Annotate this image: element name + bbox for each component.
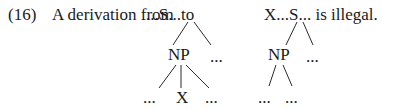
left-np-child-3: ... <box>205 88 218 108</box>
left-np-child-1: ... <box>143 88 156 108</box>
right-np-child-2: ... <box>285 88 298 108</box>
right-s-right-ellipsis: ... <box>306 47 319 67</box>
left-s-right-ellipsis: ... <box>210 47 223 67</box>
from-string: ...S...to <box>146 5 194 25</box>
left-np-child-x: X <box>176 88 188 108</box>
left-np-node: NP <box>168 45 190 65</box>
to-string: X...S... is illegal. <box>264 5 378 25</box>
right-np-child-1: ... <box>258 88 271 108</box>
example-number: (16) <box>8 5 36 25</box>
right-np-node: NP <box>268 45 290 65</box>
